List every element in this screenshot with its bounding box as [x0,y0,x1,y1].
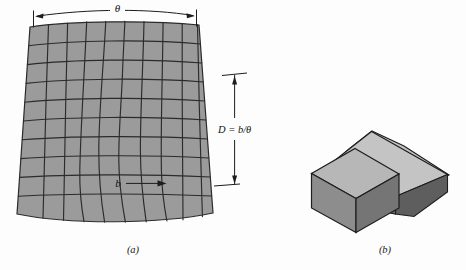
mesh-fill [17,22,213,222]
depth-label: D = b/θ [217,124,251,135]
figure-svg: θ D = b/θ b [0,0,466,270]
theta-label: θ [115,2,121,14]
panel-b-caption: (b) [379,244,392,256]
shear-label: b [115,177,121,189]
figure-root: θ D = b/θ b [0,0,466,270]
mesh-body [17,22,213,222]
panel-a-caption: (a) [127,244,140,256]
